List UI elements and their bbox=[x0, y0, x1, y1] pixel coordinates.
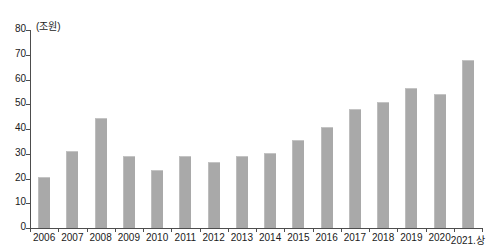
y-tick-label: 50 bbox=[15, 97, 26, 108]
bar bbox=[208, 162, 220, 228]
x-tick-label: 2020 bbox=[429, 232, 451, 243]
bar bbox=[321, 127, 333, 228]
y-tick-label: 80 bbox=[15, 23, 26, 34]
bar bbox=[38, 177, 50, 228]
bar bbox=[264, 153, 276, 228]
bar bbox=[123, 156, 135, 228]
plot-area: 01020304050607080 bbox=[30, 30, 482, 228]
x-tick-label: 2009 bbox=[118, 232, 140, 243]
y-tick-label: 70 bbox=[15, 48, 26, 59]
bar-chart: (조원) 01020304050607080 20062007200820092… bbox=[0, 0, 492, 247]
bar bbox=[151, 170, 163, 228]
bar bbox=[405, 88, 417, 228]
x-tick-label: 2011 bbox=[175, 232, 197, 243]
x-tick-label: 2014 bbox=[259, 232, 281, 243]
bar bbox=[349, 109, 361, 228]
bar bbox=[179, 156, 191, 228]
x-tick-label: 2008 bbox=[90, 232, 112, 243]
y-tick-label: 40 bbox=[15, 122, 26, 133]
bar bbox=[434, 94, 446, 228]
y-tick-label: 10 bbox=[15, 196, 26, 207]
x-axis-labels: 2006200720082009201020112012201320142015… bbox=[30, 232, 482, 247]
x-tick-label: 2010 bbox=[146, 232, 168, 243]
bar bbox=[292, 140, 304, 228]
bar bbox=[66, 151, 78, 228]
bars-layer bbox=[30, 30, 482, 228]
y-tick-label: 60 bbox=[15, 73, 26, 84]
x-tick-label: 2006 bbox=[33, 232, 55, 243]
y-tick-label: 20 bbox=[15, 172, 26, 183]
x-tick-label: 2012 bbox=[203, 232, 225, 243]
x-tick-label: 2007 bbox=[61, 232, 83, 243]
bar bbox=[236, 156, 248, 228]
x-tick-label: 2015 bbox=[287, 232, 309, 243]
bar bbox=[462, 60, 474, 228]
x-tick-label: 2016 bbox=[316, 232, 338, 243]
y-tick-label: 0 bbox=[20, 221, 26, 232]
x-tick-label: 2013 bbox=[231, 232, 253, 243]
x-tick-label: 2018 bbox=[372, 232, 394, 243]
y-tick-label: 30 bbox=[15, 147, 26, 158]
bar bbox=[95, 118, 107, 228]
x-tick-label: 2019 bbox=[400, 232, 422, 243]
x-tick-label: 2021.상 bbox=[451, 232, 485, 247]
bar bbox=[377, 102, 389, 228]
x-tick-label: 2017 bbox=[344, 232, 366, 243]
